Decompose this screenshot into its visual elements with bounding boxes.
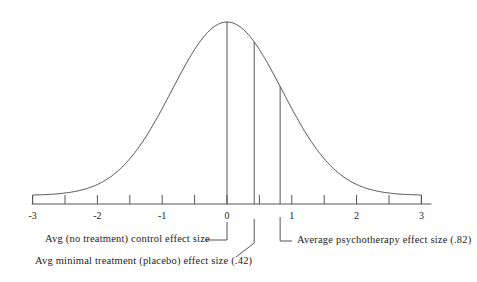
x-axis-tick-label: 1 [289,210,294,221]
leader-placebo [236,219,254,257]
label-placebo-effect: Avg minimal treatment (placebo) effect s… [35,255,252,266]
label-psychotherapy-effect: Average psychotherapy effect size (.82) [297,234,471,245]
x-axis [32,195,432,204]
label-control-effect: Avg (no treatment) control effect size [45,233,210,244]
x-axis-tick-label: -1 [158,210,166,221]
x-axis-tick-label: 3 [419,210,424,221]
effect-size-markers [205,22,292,257]
x-axis-tick-label: 0 [225,210,230,221]
x-axis-tick-label: 2 [354,210,359,221]
x-axis-tick-label: -3 [28,210,36,221]
x-axis-tick-label: -2 [93,210,101,221]
